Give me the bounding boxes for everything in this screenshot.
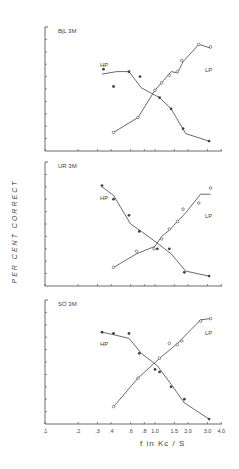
x-tick-label: 4.0 xyxy=(217,428,225,434)
panel-3: SÖ 3MHPLP.1.2.3.4.6.81.01.52.03.04.0 xyxy=(43,300,225,434)
panel-title: BjL 3M xyxy=(58,28,76,34)
x-tick-label: 1.0 xyxy=(151,428,159,434)
data-point-lp xyxy=(168,342,171,345)
data-point-lp xyxy=(112,131,115,134)
data-point-hp xyxy=(154,368,157,371)
x-tick-label: .4 xyxy=(109,428,114,434)
data-point-lp xyxy=(135,250,138,253)
data-point-hp xyxy=(138,352,141,355)
x-tick-label: 3.0 xyxy=(204,428,212,434)
data-point-hp xyxy=(138,230,141,233)
data-point-hp xyxy=(102,68,105,71)
x-tick-label: .1 xyxy=(43,428,48,434)
data-point-hp xyxy=(128,214,131,217)
data-point-hp xyxy=(128,332,131,335)
data-point-lp xyxy=(160,82,163,85)
data-point-lp xyxy=(182,208,185,211)
y-axis-label: PER CENT CORRECT xyxy=(4,180,18,290)
x-tick-label: .3 xyxy=(95,428,100,434)
data-point-hp xyxy=(182,127,185,130)
series-label-lp: LP xyxy=(205,213,212,219)
data-point-hp xyxy=(208,418,211,421)
data-point-lp xyxy=(180,59,183,62)
panel-1: BjL 3MHPLP xyxy=(45,27,222,151)
data-point-hp xyxy=(101,184,104,187)
data-point-hp xyxy=(158,371,161,374)
data-point-lp xyxy=(158,357,161,360)
data-point-hp xyxy=(208,140,211,143)
data-point-hp xyxy=(112,85,115,88)
chart-figure: BjL 3MHPLPUR 3MHPLPSÖ 3MHPLP.1.2.3.4.6.8… xyxy=(0,0,239,469)
series-label-hp: HP xyxy=(100,195,108,201)
data-point-lp xyxy=(180,340,183,343)
data-point-hp xyxy=(139,75,142,78)
panel-2: UR 3MHPLP xyxy=(45,162,222,286)
data-point-hp xyxy=(168,247,171,250)
series-line-lp xyxy=(114,319,211,407)
x-tick-label: .2 xyxy=(76,428,81,434)
data-point-lp xyxy=(176,70,179,73)
panel-title: SÖ 3M xyxy=(58,301,77,307)
data-point-lp xyxy=(168,228,171,231)
y-axis-label-text: PER CENT CORRECT xyxy=(11,177,18,287)
series-label-hp: HP xyxy=(100,62,108,68)
series-line-hp xyxy=(102,332,209,419)
data-point-hp xyxy=(170,107,173,110)
data-point-hp xyxy=(128,70,131,73)
data-point-lp xyxy=(137,377,140,380)
series-line-lp xyxy=(114,44,211,132)
series-label-lp: LP xyxy=(205,67,212,73)
data-point-hp xyxy=(158,96,161,99)
data-point-lp xyxy=(197,202,200,205)
data-point-lp xyxy=(176,220,179,223)
x-tick-label: .8 xyxy=(142,428,147,434)
data-point-lp xyxy=(168,74,171,77)
x-tick-label: .6 xyxy=(128,428,133,434)
series-line-hp xyxy=(102,72,209,142)
data-point-lp xyxy=(209,317,212,320)
x-axis-label: f in Kc / S xyxy=(140,439,185,448)
x-tick-label: 1.5 xyxy=(171,428,179,434)
panel-title: UR 3M xyxy=(58,163,77,169)
data-point-lp xyxy=(154,89,157,92)
series-label-lp: LP xyxy=(205,330,212,336)
data-point-hp xyxy=(101,331,104,334)
data-point-hp xyxy=(183,398,186,401)
data-point-hp xyxy=(183,271,186,274)
data-point-lp xyxy=(160,238,163,241)
data-point-lp xyxy=(153,248,156,251)
x-tick-label: 2.0 xyxy=(184,428,192,434)
data-point-lp xyxy=(176,343,179,346)
data-point-lp xyxy=(209,46,212,49)
data-point-hp xyxy=(156,247,159,250)
series-line-lp xyxy=(114,194,211,267)
series-line-hp xyxy=(102,187,209,276)
data-point-lp xyxy=(112,405,115,408)
data-point-lp xyxy=(137,116,140,119)
series-label-hp: HP xyxy=(100,341,108,347)
data-point-lp xyxy=(112,266,115,269)
data-point-hp xyxy=(112,198,115,201)
data-point-lp xyxy=(209,187,212,190)
data-point-hp xyxy=(208,275,211,278)
data-point-lp xyxy=(197,43,200,46)
data-point-lp xyxy=(199,320,202,323)
data-point-hp xyxy=(170,385,173,388)
data-point-hp xyxy=(112,332,115,335)
